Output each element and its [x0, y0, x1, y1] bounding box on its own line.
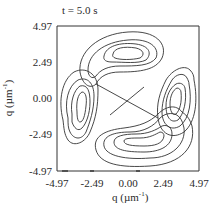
contour-lobe-left — [61, 70, 98, 144]
plot-area — [0, 0, 218, 206]
contour-lobe-bottom — [95, 107, 192, 167]
contour-figure: t = 5.0 s 4.97 2.49 0.00 -2.49 -4.97 -4.… — [0, 0, 218, 206]
contour-lobe-top — [80, 32, 164, 87]
center-cross-mark — [96, 84, 158, 118]
plot-frame — [57, 26, 199, 171]
